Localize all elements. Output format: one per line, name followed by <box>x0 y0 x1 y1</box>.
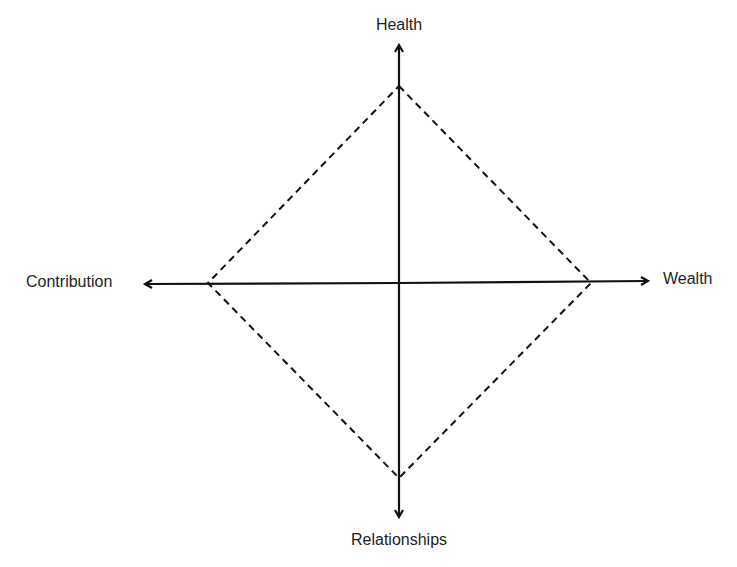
axis-label-relationships: Relationships <box>351 530 447 550</box>
axis-label-health: Health <box>376 15 422 35</box>
axis-label-contribution: Contribution <box>26 272 112 292</box>
axis-label-wealth: Wealth <box>663 269 713 289</box>
balance-diagram: Health Relationships Contribution Wealth <box>0 0 737 567</box>
axis-left-arrow <box>146 283 399 284</box>
axis-right-arrow <box>399 281 647 283</box>
